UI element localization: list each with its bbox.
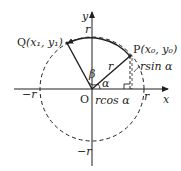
x-axis-label: x xyxy=(163,93,170,106)
radius-left-label: −r xyxy=(22,88,37,101)
origin-label: O xyxy=(80,93,89,106)
alpha-arc xyxy=(98,84,100,89)
alpha-label: α xyxy=(102,77,110,90)
rcos-label: rcos α xyxy=(95,94,130,107)
y-axis-label: y xyxy=(81,10,89,23)
point-q xyxy=(65,41,68,44)
point-p xyxy=(128,54,131,57)
beta-label: β xyxy=(88,68,95,81)
point-q-label: Q(x₁, y₁) xyxy=(17,36,63,49)
op-length-label: r xyxy=(108,60,114,73)
rsin-label: rsin α xyxy=(140,60,173,73)
radius-bottom-label: −r xyxy=(77,145,92,158)
radius-right-label: r xyxy=(144,90,150,103)
rotation-diagram: y x O r r −r −r P(x₀, y₀) Q(x₁, y₁) r rs… xyxy=(0,0,181,171)
point-p-label: P(x₀, y₀) xyxy=(133,43,177,56)
radius-top-label: r xyxy=(85,23,91,36)
right-angle-marker xyxy=(124,84,130,89)
rotation-arc xyxy=(68,38,130,56)
